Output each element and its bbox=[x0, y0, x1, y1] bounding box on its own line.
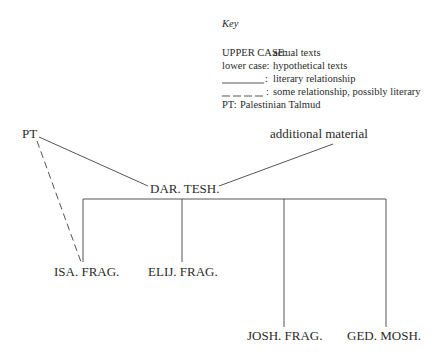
edge-pt-dar-tesh bbox=[39, 137, 148, 186]
edge-additional-dar-tesh bbox=[219, 144, 333, 186]
node-ged-mosh: GED. MOSH. bbox=[347, 329, 421, 343]
diagram-lines bbox=[0, 0, 448, 363]
node-isa-frag: ISA. FRAG. bbox=[54, 265, 119, 279]
node-elij-frag: ELIJ. FRAG. bbox=[148, 265, 218, 279]
node-josh-frag: JOSH. FRAG. bbox=[247, 329, 323, 343]
node-additional-material: additional material bbox=[270, 127, 368, 141]
edge-pt-isa-frag-dashed bbox=[37, 141, 81, 262]
node-pt: PT bbox=[22, 127, 37, 141]
node-dar-tesh: DAR. TESH. bbox=[150, 182, 219, 196]
